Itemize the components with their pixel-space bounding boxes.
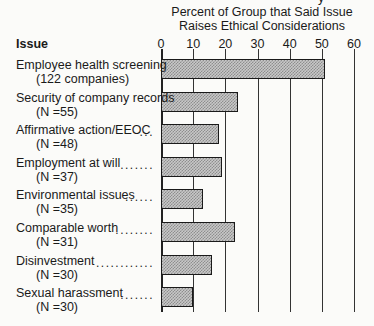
category-label: Employment at will(N =37) [16, 156, 120, 184]
bar [161, 255, 212, 275]
category-name: Affirmative action/EEOC [16, 123, 151, 137]
category-count: (N =55) [16, 105, 174, 119]
leader-dots: ....... [120, 288, 154, 302]
leader-dots: ....... [120, 158, 154, 172]
chart-title: Percent of Group that Said Issue Raises … [150, 5, 374, 33]
category-header: Issue [16, 37, 48, 51]
chart-title-line-1: Percent of Group that Said Issue [150, 5, 374, 19]
leader-dots: ... [139, 125, 154, 139]
gridline [354, 49, 355, 312]
category-count: (N =30) [16, 268, 95, 282]
category-label: Employee health screening(122 companies) [16, 58, 167, 86]
category-name: Disinvestment [16, 254, 95, 268]
category-count: (N =35) [16, 202, 135, 216]
gridline [258, 49, 259, 312]
bar [161, 287, 193, 307]
category-name: Comparable worth [16, 221, 118, 235]
category-label: Disinvestment(N =30) [16, 254, 95, 282]
gridline [225, 49, 226, 312]
category-count: (122 companies) [16, 72, 167, 86]
gridline [322, 49, 323, 312]
leader-dots: ...... [125, 190, 154, 204]
category-count: (N =37) [16, 170, 120, 184]
category-label: Environmental issues(N =35) [16, 188, 135, 216]
bar [161, 189, 203, 209]
chart-title-line-2: Raises Ethical Considerations [150, 19, 374, 33]
category-name: Sexual harassment [16, 286, 123, 300]
category-count: (N =48) [16, 137, 151, 151]
category-name: Environmental issues [16, 188, 135, 202]
category-label: Affirmative action/EEOC(N =48) [16, 123, 151, 151]
leader-dots: ........ [115, 223, 154, 237]
bar [161, 157, 222, 177]
category-label: Security of company records(N =55) [16, 91, 174, 119]
bar [161, 59, 325, 79]
leader-dots: ............ [96, 256, 154, 270]
bar [161, 222, 235, 242]
category-name: Employee health screening [16, 58, 167, 72]
category-count: (N =30) [16, 300, 123, 314]
category-label: Comparable worth(N =31) [16, 221, 118, 249]
category-count: (N =31) [16, 235, 118, 249]
category-name: Security of company records [16, 91, 174, 105]
bar [161, 124, 219, 144]
category-label: Sexual harassment(N =30) [16, 286, 123, 314]
gridline [290, 49, 291, 312]
category-name: Employment at will [16, 156, 120, 170]
